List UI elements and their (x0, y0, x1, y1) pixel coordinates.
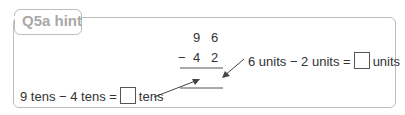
tens-hint: 9 tens − 4 tens =tens (20, 87, 163, 104)
units-answer-box[interactable] (354, 52, 370, 69)
units-hint: 6 units − 2 units =units (248, 52, 400, 69)
tens-answer-box[interactable] (120, 87, 136, 104)
